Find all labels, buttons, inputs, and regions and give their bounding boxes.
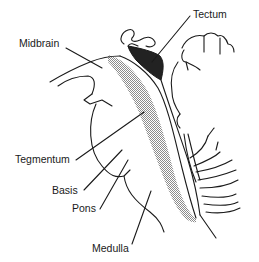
label-medulla: Medulla	[92, 242, 129, 254]
label-tectum: Tectum	[193, 8, 227, 20]
leader-basis	[84, 150, 122, 190]
tectum-lobules	[121, 30, 155, 47]
brainstem-diagram: Midbrain Tectum Tegmentum Basis Pons Med…	[0, 0, 259, 262]
label-pons: Pons	[72, 202, 96, 214]
leader-pons	[100, 160, 128, 209]
label-midbrain: Midbrain	[19, 37, 59, 49]
cerebellum	[171, 33, 240, 213]
leader-tectum	[152, 16, 190, 62]
leader-tegmentum	[76, 112, 144, 160]
label-tegmentum: Tegmentum	[15, 153, 70, 165]
label-basis: Basis	[52, 184, 78, 196]
